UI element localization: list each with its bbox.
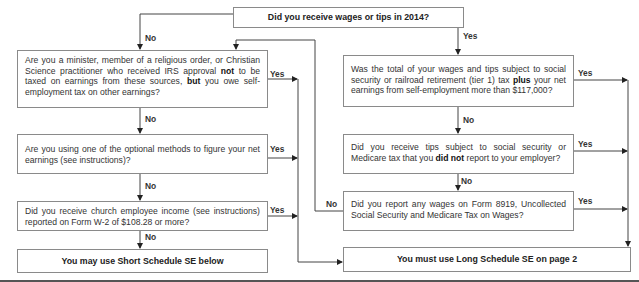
short-schedule-result-text: You may use Short Schedule SE below xyxy=(61,256,223,267)
unreported-tips-no-label: No xyxy=(461,176,472,186)
church-income-no-label: No xyxy=(145,232,156,242)
form-8919-question-text: Did you report any wages on Form 8919, U… xyxy=(351,199,566,220)
short-schedule-result-box: You may use Short Schedule SE below xyxy=(17,249,268,273)
optional-methods-yes-label: Yes xyxy=(270,144,284,154)
start-question-text: Did you receive wages or tips in 2014? xyxy=(268,12,429,23)
start-question-box: Did you receive wages or tips in 2014? xyxy=(233,7,464,28)
minister-question-box: Are you a minister, member of a religiou… xyxy=(17,50,268,108)
form-8919-yes-label: Yes xyxy=(578,196,592,206)
wages-threshold-question-box: Was the total of your wages and tips sub… xyxy=(343,55,574,107)
unreported-tips-question-text: Did you receive tips subject to social s… xyxy=(351,142,566,163)
start-no-label: No xyxy=(145,33,156,43)
optional-methods-no-label: No xyxy=(145,181,156,191)
wages-threshold-question-text: Was the total of your wages and tips sub… xyxy=(351,64,566,96)
optional-methods-question-text: Are you using one of the optional method… xyxy=(25,144,260,165)
minister-yes-label: Yes xyxy=(270,69,284,79)
church-income-question-text: Did you receive church employee income (… xyxy=(25,206,260,227)
wages-threshold-yes-label: Yes xyxy=(578,68,592,78)
long-schedule-result-text: You must use Long Schedule SE on page 2 xyxy=(397,254,577,265)
church-income-question-box: Did you receive church employee income (… xyxy=(17,201,268,231)
start-yes-label: Yes xyxy=(463,31,477,41)
optional-methods-question-box: Are you using one of the optional method… xyxy=(17,134,268,174)
church-income-yes-label: Yes xyxy=(270,205,284,215)
minister-question-text: Are you a minister, member of a religiou… xyxy=(25,55,260,97)
form-8919-question-box: Did you report any wages on Form 8919, U… xyxy=(343,191,574,231)
unreported-tips-yes-label: Yes xyxy=(578,139,592,149)
unreported-tips-question-box: Did you receive tips subject to social s… xyxy=(343,134,574,174)
minister-no-label: No xyxy=(145,114,156,124)
form-8919-no-label: No xyxy=(326,199,337,209)
long-schedule-result-box: You must use Long Schedule SE on page 2 xyxy=(343,247,631,272)
wages-threshold-no-label: No xyxy=(463,115,474,125)
